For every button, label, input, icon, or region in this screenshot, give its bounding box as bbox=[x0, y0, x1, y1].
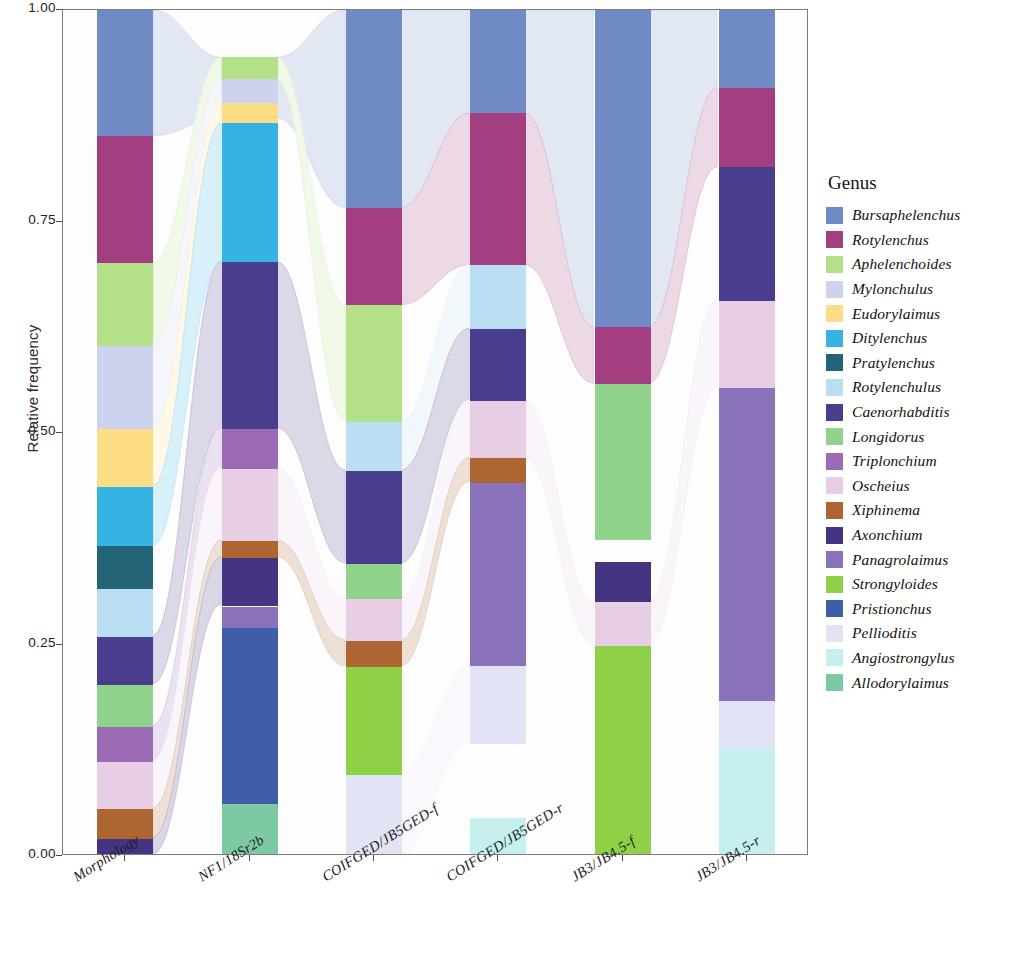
bar-segment[interactable] bbox=[222, 469, 278, 542]
bar-segment[interactable] bbox=[222, 558, 278, 605]
bar-segment[interactable] bbox=[719, 388, 775, 701]
bar-segment[interactable] bbox=[595, 10, 651, 327]
bar-segment[interactable] bbox=[97, 136, 153, 263]
bar-segment[interactable] bbox=[719, 10, 775, 88]
legend-item[interactable]: Strongyloides bbox=[826, 572, 1006, 597]
bar-segment[interactable] bbox=[346, 641, 402, 667]
bar-segment[interactable] bbox=[719, 167, 775, 301]
bar-segment[interactable] bbox=[595, 327, 651, 384]
bar-segment[interactable] bbox=[97, 809, 153, 839]
bar-column[interactable] bbox=[719, 10, 775, 854]
plot-area bbox=[62, 9, 808, 855]
legend-label: Panagrolaimus bbox=[852, 551, 948, 569]
bar-segment[interactable] bbox=[470, 666, 526, 744]
y-tick-label: 0.25 bbox=[0, 635, 56, 650]
bar-segment[interactable] bbox=[97, 346, 153, 429]
legend-label: Pratylenchus bbox=[852, 354, 935, 372]
legend-item[interactable]: Triplonchium bbox=[826, 449, 1006, 474]
bar-segment[interactable] bbox=[719, 88, 775, 168]
legend-swatch-icon bbox=[826, 330, 843, 347]
bar-segment[interactable] bbox=[470, 113, 526, 265]
bar-segment[interactable] bbox=[346, 422, 402, 471]
bar-segment[interactable] bbox=[595, 562, 651, 603]
y-tick-label: 1.00 bbox=[0, 0, 56, 15]
legend-item[interactable]: Aphelenchoides bbox=[826, 252, 1006, 277]
bar-segment[interactable] bbox=[470, 265, 526, 328]
bar-segment[interactable] bbox=[470, 10, 526, 113]
bar-column[interactable] bbox=[346, 10, 402, 854]
bar-segment[interactable] bbox=[595, 384, 651, 540]
legend-item[interactable]: Rotylenchulus bbox=[826, 375, 1006, 400]
bar-segment[interactable] bbox=[222, 628, 278, 805]
bar-segment[interactable] bbox=[97, 762, 153, 809]
legend-item[interactable]: Panagrolaimus bbox=[826, 547, 1006, 572]
legend-item[interactable]: Axonchium bbox=[826, 523, 1006, 548]
legend-label: Pristionchus bbox=[852, 600, 932, 618]
legend-swatch-icon bbox=[826, 281, 843, 298]
bar-segment[interactable] bbox=[222, 57, 278, 79]
bar-segment[interactable] bbox=[470, 458, 526, 483]
bar-segment[interactable] bbox=[346, 667, 402, 774]
bar-segment[interactable] bbox=[97, 487, 153, 546]
bar-segment[interactable] bbox=[346, 599, 402, 641]
bar-column[interactable] bbox=[470, 10, 526, 854]
legend-item[interactable]: Bursaphelenchus bbox=[826, 203, 1006, 228]
legend-item[interactable]: Angiostrongylus bbox=[826, 646, 1006, 671]
bar-segment[interactable] bbox=[97, 685, 153, 726]
legend-item[interactable]: Caenorhabditis bbox=[826, 400, 1006, 425]
bar-segment[interactable] bbox=[222, 429, 278, 469]
legend-item[interactable]: Longidorus bbox=[826, 424, 1006, 449]
bar-segment[interactable] bbox=[470, 329, 526, 401]
bar-segment[interactable] bbox=[595, 646, 651, 854]
bar-segment[interactable] bbox=[595, 602, 651, 646]
legend-item[interactable]: Mylonchulus bbox=[826, 277, 1006, 302]
legend-item[interactable]: Pellioditis bbox=[826, 621, 1006, 646]
y-tick-label: 0.00 bbox=[0, 846, 56, 861]
legend-swatch-icon bbox=[826, 674, 843, 691]
bar-segment[interactable] bbox=[97, 263, 153, 346]
bar-segment[interactable] bbox=[97, 10, 153, 136]
legend-label: Longidorus bbox=[852, 428, 925, 446]
legend-swatch-icon bbox=[826, 576, 843, 593]
bar-segment[interactable] bbox=[222, 262, 278, 429]
bar-column[interactable] bbox=[595, 10, 651, 854]
bar-segment[interactable] bbox=[470, 483, 526, 667]
bar-segment[interactable] bbox=[97, 727, 153, 763]
legend-item[interactable]: Pristionchus bbox=[826, 597, 1006, 622]
bar-segment[interactable] bbox=[346, 305, 402, 422]
bar-segment[interactable] bbox=[719, 301, 775, 388]
legend-swatch-icon bbox=[826, 354, 843, 371]
bar-segment[interactable] bbox=[97, 429, 153, 487]
legend-item[interactable]: Rotylenchus bbox=[826, 228, 1006, 253]
bar-segment[interactable] bbox=[346, 564, 402, 599]
bar-segment[interactable] bbox=[222, 541, 278, 558]
legend-label: Rotylenchulus bbox=[852, 378, 941, 396]
legend-item[interactable]: Oscheius bbox=[826, 474, 1006, 499]
legend-label: Rotylenchus bbox=[852, 231, 929, 249]
bar-layer bbox=[63, 10, 807, 854]
bar-segment[interactable] bbox=[346, 471, 402, 564]
bar-segment[interactable] bbox=[346, 208, 402, 305]
bar-segment[interactable] bbox=[719, 701, 775, 748]
legend-rows: BursaphelenchusRotylenchusAphelenchoides… bbox=[826, 203, 1006, 695]
bar-segment[interactable] bbox=[222, 79, 278, 103]
bar-segment[interactable] bbox=[97, 546, 153, 588]
bar-segment[interactable] bbox=[470, 401, 526, 459]
bar-segment[interactable] bbox=[97, 589, 153, 637]
bar-column[interactable] bbox=[222, 10, 278, 854]
bar-segment[interactable] bbox=[97, 637, 153, 685]
bar-segment[interactable] bbox=[346, 10, 402, 208]
y-tick-label: 0.50 bbox=[0, 423, 56, 438]
bar-segment[interactable] bbox=[222, 607, 278, 627]
legend-item[interactable]: Eudorylaimus bbox=[826, 301, 1006, 326]
legend-swatch-icon bbox=[826, 625, 843, 642]
legend-item[interactable]: Pratylenchus bbox=[826, 351, 1006, 376]
legend-swatch-icon bbox=[826, 453, 843, 470]
legend-item[interactable]: Xiphinema bbox=[826, 498, 1006, 523]
bar-column[interactable] bbox=[97, 10, 153, 854]
legend-item[interactable]: Allodorylaimus bbox=[826, 670, 1006, 695]
legend-swatch-icon bbox=[826, 404, 843, 421]
bar-segment[interactable] bbox=[222, 103, 278, 123]
legend-item[interactable]: Ditylenchus bbox=[826, 326, 1006, 351]
bar-segment[interactable] bbox=[222, 123, 278, 262]
